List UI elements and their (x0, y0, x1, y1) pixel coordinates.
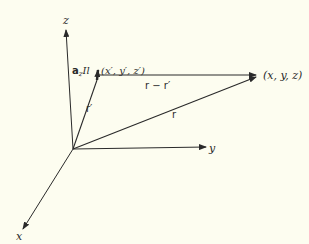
r-label: r (172, 109, 177, 120)
x-axis (23, 149, 73, 229)
diagram-canvas: z y x r′ azIl (x′, y′, z′) r − r′ r (x, … (0, 0, 309, 244)
r-prime-vector (73, 80, 97, 149)
z-axis-label: z (62, 14, 69, 27)
current-element-arrow (97, 70, 98, 80)
unit-vector-a: a (72, 65, 79, 76)
z-axis (66, 30, 73, 149)
y-axis-label: y (208, 142, 216, 155)
r-prime-label: r′ (86, 103, 93, 114)
field-point-label: (x, y, z) (263, 69, 302, 82)
source-point-label: (x′, y′, z′) (101, 65, 145, 76)
r-minus-r-prime-label: r − r′ (145, 80, 171, 91)
y-axis (73, 147, 206, 149)
x-axis-label: x (16, 230, 23, 243)
current-il: Il (81, 65, 89, 76)
current-element-label: azIl (72, 65, 90, 78)
